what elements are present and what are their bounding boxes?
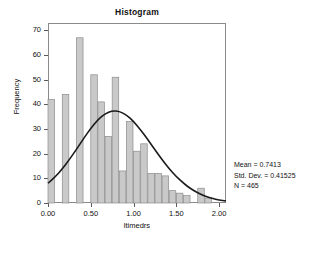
histogram-bar: [119, 171, 126, 203]
histogram-bar: [105, 136, 112, 203]
stat-mean: Mean = 0.7413: [234, 160, 296, 171]
bars-and-curve-layer: [0, 0, 320, 259]
histogram-bar: [176, 193, 183, 203]
histogram-bars: [48, 38, 211, 203]
histogram-bar: [205, 198, 212, 203]
histogram-bar: [62, 95, 69, 203]
histogram-bar: [141, 144, 148, 203]
histogram-bar: [148, 173, 155, 203]
histogram-bar: [48, 99, 55, 203]
histogram-bar: [169, 191, 176, 203]
histogram-bar: [91, 75, 98, 203]
histogram-bar: [126, 122, 133, 203]
histogram-bar: [112, 77, 119, 203]
histogram-bar: [155, 173, 162, 203]
histogram-bar: [77, 38, 84, 203]
histogram-figure: Histogram Frequency ltimedrs 01020304050…: [0, 0, 320, 259]
histogram-bar: [162, 176, 169, 203]
stat-std-dev: Std. Dev. = 0.41525: [234, 171, 296, 182]
statistics-annotation: Mean = 0.7413 Std. Dev. = 0.41525 N = 46…: [234, 160, 296, 192]
histogram-bar: [134, 151, 141, 203]
stat-n: N = 465: [234, 181, 296, 192]
histogram-bar: [183, 196, 190, 203]
